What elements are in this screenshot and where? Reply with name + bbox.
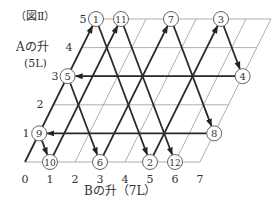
pour-arrow bbox=[99, 26, 148, 154]
figure-label: （図Ⅱ） bbox=[15, 11, 55, 22]
y-tick-2: 2 bbox=[37, 99, 44, 110]
y-axis-label: Aの升 bbox=[16, 41, 49, 53]
state-node-6: 6 bbox=[93, 155, 108, 170]
state-node-11: 11 bbox=[114, 12, 129, 27]
state-number: 12 bbox=[169, 158, 180, 168]
pour-arrow bbox=[103, 26, 167, 155]
pour-arrow bbox=[53, 26, 117, 155]
x-tick-0: 0 bbox=[22, 174, 29, 185]
state-node-9: 9 bbox=[32, 126, 47, 141]
state-node-4: 4 bbox=[235, 69, 250, 84]
state-node-12: 12 bbox=[168, 155, 183, 170]
state-node-5: 5 bbox=[60, 69, 75, 84]
state-number: 8 bbox=[211, 128, 217, 139]
state-number: 10 bbox=[44, 158, 56, 168]
y-tick-3: 3 bbox=[52, 71, 59, 82]
x-tick-2: 2 bbox=[72, 174, 79, 185]
x-tick-3: 3 bbox=[97, 174, 104, 185]
x-tick-4: 4 bbox=[122, 174, 129, 185]
pour-arrow bbox=[124, 26, 173, 154]
state-node-8: 8 bbox=[207, 126, 222, 141]
x-tick-1: 1 bbox=[47, 174, 54, 185]
state-node-10: 10 bbox=[43, 155, 58, 170]
state-number: 6 bbox=[97, 157, 103, 168]
water-jug-diagram: 123456789101112 （図Ⅱ） Aの升 (5L) 1 2 3 4 5 … bbox=[0, 0, 280, 202]
x-tick-7: 7 bbox=[197, 174, 204, 185]
state-node-1: 1 bbox=[89, 12, 104, 27]
state-number: 11 bbox=[115, 15, 126, 25]
pour-arrow bbox=[42, 140, 47, 154]
state-number: 2 bbox=[147, 157, 153, 168]
state-node-3: 3 bbox=[214, 12, 229, 27]
x-tick-5: 5 bbox=[147, 174, 154, 185]
state-number: 9 bbox=[36, 128, 42, 139]
y-axis-capacity: (5L) bbox=[24, 58, 47, 69]
y-tick-4: 4 bbox=[66, 42, 73, 53]
state-number: 1 bbox=[93, 14, 99, 25]
state-number: 7 bbox=[168, 14, 174, 25]
x-tick-6: 6 bbox=[172, 174, 179, 185]
state-number: 5 bbox=[64, 71, 70, 82]
state-node-2: 2 bbox=[143, 155, 158, 170]
state-number: 4 bbox=[239, 71, 245, 82]
x-axis-label: Bの升（7L） bbox=[84, 185, 156, 197]
state-number: 3 bbox=[218, 14, 224, 25]
y-tick-5: 5 bbox=[80, 14, 87, 25]
y-tick-1: 1 bbox=[23, 128, 30, 139]
state-nodes: 123456789101112 bbox=[32, 12, 250, 170]
state-node-7: 7 bbox=[164, 12, 179, 27]
